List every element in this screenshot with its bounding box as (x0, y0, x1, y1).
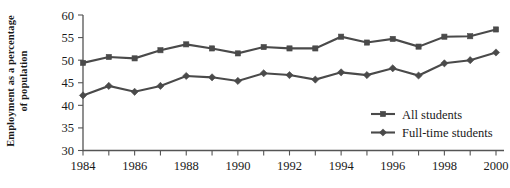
data-point-marker (287, 46, 292, 51)
data-point-marker (390, 36, 395, 41)
data-point-marker (260, 70, 267, 77)
y-tick-label: 55 (62, 31, 75, 45)
legend-label: All students (402, 108, 462, 122)
x-tick-label: 1984 (71, 159, 97, 173)
data-point-marker (235, 51, 240, 56)
data-point-marker (416, 44, 421, 49)
data-point-marker (184, 42, 189, 47)
y-tick-label: 35 (62, 121, 75, 135)
legend-label: Full-time students (402, 126, 493, 140)
y-tick-label: 50 (62, 54, 75, 68)
x-tick-label: 1998 (432, 159, 457, 173)
data-point-marker (313, 46, 318, 51)
data-point-marker (132, 56, 137, 61)
chart-legend: All studentsFull-time students (371, 108, 493, 141)
data-point-marker (339, 34, 344, 39)
x-tick-label: 1996 (380, 159, 405, 173)
x-tick-label: 1986 (122, 159, 147, 173)
x-tick-label: 2000 (484, 159, 509, 173)
data-point-marker (363, 71, 370, 78)
data-point-marker (79, 92, 86, 99)
data-point-marker (286, 71, 293, 78)
x-axis-tick-group: 198419861988199019921994199619982000 (71, 151, 509, 173)
data-point-marker (492, 49, 499, 56)
data-point-marker (380, 111, 385, 116)
line-chart-plot: 30354045505560 1984198619881990199219941… (0, 0, 510, 188)
data-point-marker (158, 48, 163, 53)
data-point-marker (415, 72, 422, 79)
y-axis-tick-group: 30354045505560 (62, 9, 84, 159)
x-tick-label: 1992 (277, 159, 302, 173)
x-tick-label: 1988 (174, 159, 199, 173)
data-point-marker (209, 46, 214, 51)
data-point-marker (157, 82, 164, 89)
data-point-marker (379, 129, 386, 136)
y-tick-label: 40 (62, 99, 75, 113)
data-point-marker (493, 27, 498, 32)
y-tick-label: 60 (62, 9, 75, 23)
x-tick-label: 1990 (225, 159, 250, 173)
series-1 (80, 27, 498, 66)
y-tick-label: 45 (62, 76, 75, 90)
chart-figure: Employment as a percentage of population… (0, 0, 510, 188)
x-tick-label: 1994 (329, 159, 355, 173)
data-point-marker (312, 76, 319, 83)
data-point-marker (338, 69, 345, 76)
legend-item-2: Full-time students (371, 126, 493, 140)
data-point-marker (234, 77, 241, 84)
data-point-marker (183, 72, 190, 79)
data-point-marker (468, 34, 473, 39)
y-tick-label: 30 (62, 144, 75, 158)
data-point-marker (364, 40, 369, 45)
data-point-marker (441, 60, 448, 67)
data-point-marker (467, 57, 474, 64)
data-point-marker (80, 60, 85, 65)
legend-item-1: All students (371, 108, 462, 122)
data-point-marker (106, 54, 111, 59)
data-point-marker (208, 74, 215, 81)
data-point-marker (105, 82, 112, 89)
data-series-group (79, 27, 499, 99)
data-point-marker (261, 44, 266, 49)
data-point-marker (442, 34, 447, 39)
data-point-marker (389, 65, 396, 72)
data-point-marker (131, 88, 138, 95)
